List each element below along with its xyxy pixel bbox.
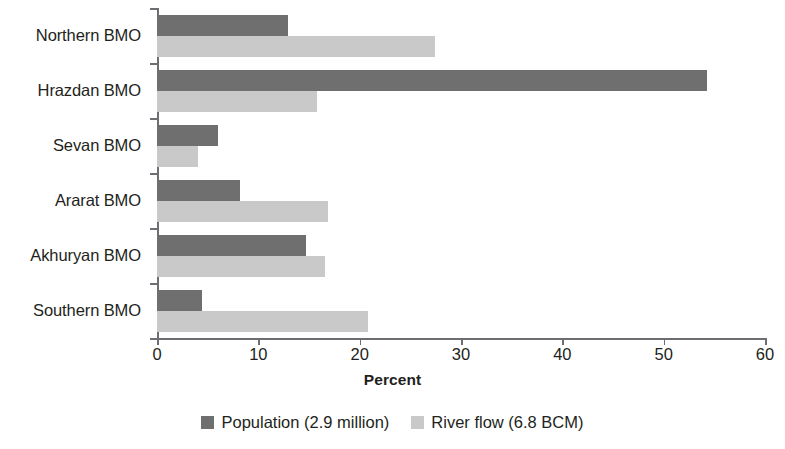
chart-legend: Population (2.9 million)River flow (6.8 … — [0, 413, 785, 432]
bar-group — [157, 283, 765, 338]
bar — [157, 146, 198, 167]
x-axis-tick — [562, 338, 564, 345]
y-axis-tick — [150, 173, 157, 175]
x-axis-tick-label: 20 — [350, 345, 368, 364]
bar — [157, 180, 240, 201]
plot-area — [157, 8, 765, 338]
bar-group — [157, 8, 765, 63]
y-axis-tick — [150, 283, 157, 285]
category-axis-labels: Northern BMOHrazdan BMOSevan BMOArarat B… — [0, 8, 150, 338]
x-axis-tick — [157, 338, 159, 345]
bar — [157, 36, 435, 57]
x-axis-tick — [461, 338, 463, 345]
bar — [157, 235, 306, 256]
bar — [157, 201, 328, 222]
category-label: Southern BMO — [0, 283, 150, 338]
bar — [157, 256, 325, 277]
bar — [157, 290, 202, 311]
x-axis-tick-label: 30 — [452, 345, 470, 364]
legend-swatch-icon — [201, 416, 214, 429]
bar — [157, 125, 218, 146]
bar-group — [157, 228, 765, 283]
x-axis-title: Percent — [0, 371, 785, 389]
x-axis-tick-labels: 0102030405060 — [157, 345, 765, 369]
legend-label: River flow (6.8 BCM) — [431, 413, 583, 432]
y-axis-tick — [150, 228, 157, 230]
x-axis-tick-label: 50 — [654, 345, 672, 364]
category-label: Ararat BMO — [0, 173, 150, 228]
category-label: Northern BMO — [0, 8, 150, 63]
y-axis-tick — [150, 338, 157, 340]
bar — [157, 70, 707, 91]
category-label: Akhuryan BMO — [0, 228, 150, 283]
bar — [157, 15, 288, 36]
x-axis-tick — [765, 338, 767, 345]
x-axis-tick-label: 0 — [152, 345, 161, 364]
legend-swatch-icon — [411, 416, 424, 429]
bar-chart: Northern BMOHrazdan BMOSevan BMOArarat B… — [0, 0, 785, 449]
x-axis-tick — [258, 338, 260, 345]
bar-group — [157, 173, 765, 228]
category-label: Hrazdan BMO — [0, 63, 150, 118]
x-axis-tick-label: 40 — [553, 345, 571, 364]
x-axis-tick-label: 60 — [756, 345, 774, 364]
bar-group — [157, 63, 765, 118]
bar — [157, 91, 317, 112]
bar-group — [157, 118, 765, 173]
bar — [157, 311, 368, 332]
y-axis-tick — [150, 118, 157, 120]
x-axis-tick — [360, 338, 362, 345]
y-axis-tick — [150, 63, 157, 65]
legend-label: Population (2.9 million) — [221, 413, 389, 432]
category-label: Sevan BMO — [0, 118, 150, 173]
legend-item[interactable]: Population (2.9 million) — [201, 413, 389, 432]
legend-item[interactable]: River flow (6.8 BCM) — [411, 413, 583, 432]
x-axis-tick — [664, 338, 666, 345]
y-axis-tick — [150, 8, 157, 10]
x-axis-tick-label: 10 — [249, 345, 267, 364]
